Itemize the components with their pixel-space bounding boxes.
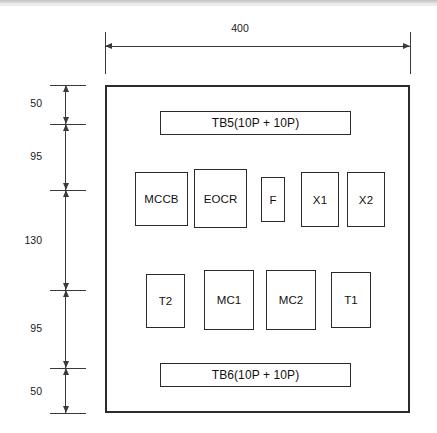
- component-x2: X2: [347, 172, 385, 227]
- component-mc2-label: MC2: [279, 294, 304, 306]
- terminal-block-tb6-label: TB6(10P + 10P): [212, 368, 300, 382]
- component-mccb-label: MCCB: [144, 193, 178, 205]
- dim-contactors-to-tb6-line: [65, 290, 66, 368]
- component-f: F: [261, 177, 285, 222]
- width-dimension-line: [105, 46, 410, 47]
- component-f-label: F: [269, 194, 276, 206]
- dimension-witness-tick-5: [50, 413, 86, 414]
- dim-contactors-to-tb6-label: 95: [8, 322, 42, 334]
- dim-tb5-to-devices-arrow-bottom: [63, 183, 69, 190]
- terminal-block-tb5-label: TB5(10P + 10P): [212, 116, 300, 130]
- dim-top-clearance-arrow-bottom: [63, 117, 69, 124]
- component-mc1-label: MC1: [217, 294, 242, 306]
- dim-devices-to-contactors-label: 130: [8, 234, 42, 246]
- component-eocr-label: EOCR: [204, 193, 238, 205]
- width-arrow-left: [105, 43, 112, 49]
- width-dimension-label: 400: [210, 22, 270, 34]
- component-t2: T2: [146, 274, 185, 328]
- terminal-block-tb5: TB5(10P + 10P): [160, 111, 351, 135]
- dim-top-clearance-arrow-top: [63, 85, 69, 92]
- component-t1-label: T1: [344, 294, 358, 306]
- width-extension-line-left: [105, 32, 106, 74]
- dim-contactors-to-tb6-arrow-top: [63, 290, 69, 297]
- dim-top-clearance-label: 50: [8, 97, 42, 109]
- component-x2-label: X2: [359, 194, 373, 206]
- component-t1: T1: [331, 272, 371, 328]
- dim-bottom-clearance-arrow-bottom: [63, 406, 69, 413]
- component-x1: X1: [301, 172, 339, 227]
- dim-bottom-clearance-arrow-top: [63, 368, 69, 375]
- dim-contactors-to-tb6-arrow-bottom: [63, 361, 69, 368]
- dim-devices-to-contactors-arrow-bottom: [63, 283, 69, 290]
- width-arrow-right: [403, 43, 410, 49]
- panel-layout-drawing: 400 50951309550 TB5(10P + 10P)MCCBEOCRFX…: [0, 0, 437, 433]
- dim-tb5-to-devices-label: 95: [8, 150, 42, 162]
- dim-devices-to-contactors-arrow-top: [63, 190, 69, 197]
- width-extension-line-right: [410, 32, 411, 74]
- component-x1-label: X1: [313, 194, 327, 206]
- scan-artifact-band-secondary: [0, 4, 437, 6]
- component-mc2: MC2: [266, 270, 316, 330]
- dim-tb5-to-devices-line: [65, 124, 66, 190]
- component-eocr: EOCR: [194, 169, 247, 228]
- dim-devices-to-contactors-line: [65, 190, 66, 290]
- component-mccb: MCCB: [135, 172, 188, 226]
- dim-tb5-to-devices-arrow-top: [63, 124, 69, 131]
- component-t2-label: T2: [159, 295, 173, 307]
- terminal-block-tb6: TB6(10P + 10P): [160, 363, 351, 387]
- component-mc1: MC1: [204, 270, 254, 330]
- dim-bottom-clearance-label: 50: [8, 385, 42, 397]
